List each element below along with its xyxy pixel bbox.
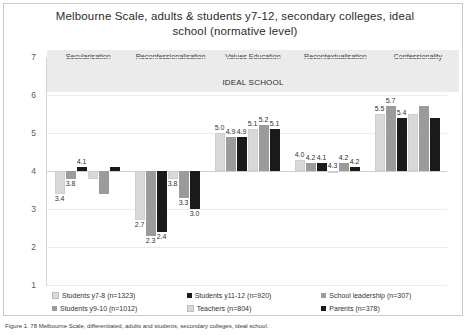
- bar-slot: 3.4: [55, 57, 65, 285]
- legend-swatch-icon: [52, 306, 57, 311]
- bar-slot: 5.2: [259, 57, 269, 285]
- value-label: 4.2: [350, 158, 360, 165]
- value-label: 5.1: [270, 120, 280, 127]
- bar-group-4: 5.55.75.4: [367, 57, 447, 285]
- bar-0-2[interactable]: [77, 167, 87, 171]
- value-label: 4.9: [237, 128, 247, 135]
- value-label: 5.0: [215, 124, 225, 131]
- value-label: 3.8: [66, 180, 76, 187]
- value-label: 5.2: [259, 116, 269, 123]
- bar-slot: 5.0: [215, 57, 225, 285]
- bar-3-4[interactable]: [339, 163, 349, 171]
- value-label: 4.3: [328, 162, 338, 169]
- value-label: 5.4: [397, 109, 407, 116]
- bar-1-5[interactable]: [190, 171, 200, 209]
- value-label: 4.1: [317, 154, 327, 161]
- bar-slot: 2.3: [146, 57, 156, 285]
- bar-0-1[interactable]: [66, 171, 76, 179]
- legend-item-0[interactable]: Students y7-8 (n=1323): [52, 289, 183, 302]
- bar-3-1[interactable]: [306, 163, 316, 171]
- bar-2-1[interactable]: [226, 137, 236, 171]
- y-tick-1: 1: [16, 280, 36, 290]
- bar-slot: 4.2: [306, 57, 316, 285]
- bar-0-3[interactable]: [88, 171, 98, 179]
- bar-group-1: 2.72.32.43.83.33.0: [127, 57, 207, 285]
- y-tick-6: 6: [16, 90, 36, 100]
- bar-4-0[interactable]: [375, 114, 385, 171]
- bar-slot: [110, 57, 120, 285]
- bar-1-1[interactable]: [146, 171, 156, 236]
- bar-4-3[interactable]: [408, 114, 418, 171]
- bar-2-2[interactable]: [237, 137, 247, 171]
- value-label: 4.2: [339, 154, 349, 161]
- legend-swatch-icon: [187, 305, 194, 312]
- legend-swatch-icon: [321, 306, 326, 311]
- bar-2-4[interactable]: [259, 125, 269, 171]
- bar-group-0: 3.43.84.1: [47, 57, 127, 285]
- page-title: Melbourne Scale, adults & students y7-12…: [40, 9, 430, 39]
- bar-2-3[interactable]: [248, 129, 258, 171]
- bar-slot: 4.3: [328, 57, 338, 285]
- value-label: 3.0: [190, 210, 200, 217]
- legend-label: Students y7-8 (n=1323): [62, 292, 135, 299]
- y-tick-2: 2: [16, 242, 36, 252]
- y-tick-5: 5: [16, 128, 36, 138]
- legend-label: Parents (n=378): [329, 305, 379, 312]
- bar-0-0[interactable]: [55, 171, 65, 194]
- bar-slot: [430, 57, 440, 285]
- bar-slot: 4.0: [295, 57, 305, 285]
- bar-slot: 4.2: [350, 57, 360, 285]
- bar-slot: 4.1: [77, 57, 87, 285]
- y-tick-7: 7: [16, 52, 36, 62]
- bar-slot: 5.1: [248, 57, 258, 285]
- bar-4-1[interactable]: [386, 106, 396, 171]
- value-label: 3.3: [179, 199, 189, 206]
- bar-slot: 4.9: [237, 57, 247, 285]
- value-label: 2.4: [157, 233, 167, 240]
- gridline-1: [47, 285, 447, 286]
- bar-1-3[interactable]: [168, 171, 178, 179]
- legend-item-4[interactable]: School leadership (n=307): [321, 289, 452, 302]
- value-label: 5.7: [386, 97, 396, 104]
- value-label: 3.4: [55, 195, 65, 202]
- bar-1-4[interactable]: [179, 171, 189, 198]
- legend-item-3[interactable]: Teachers (n=804): [187, 302, 318, 315]
- bar-0-5[interactable]: [110, 167, 120, 171]
- value-label: 2.3: [146, 237, 156, 244]
- y-tick-3: 3: [16, 204, 36, 214]
- chart-legend: Students y7-8 (n=1323)Students y11-12 (n…: [52, 289, 452, 315]
- bar-slot: 3.8: [66, 57, 76, 285]
- bar-3-3[interactable]: [328, 171, 338, 173]
- value-label: 4.1: [77, 158, 87, 165]
- bar-1-0[interactable]: [135, 171, 145, 220]
- bar-3-2[interactable]: [317, 163, 327, 171]
- bar-slot: [99, 57, 109, 285]
- figure-caption: Figure 1. 78 Melbourne Scale, differenti…: [5, 322, 460, 330]
- value-label: 2.7: [135, 221, 145, 228]
- bar-slot: 3.8: [168, 57, 178, 285]
- legend-swatch-icon: [321, 293, 326, 298]
- legend-label: School leadership (n=307): [329, 292, 411, 299]
- bar-slot: 5.1: [270, 57, 280, 285]
- bar-4-4[interactable]: [419, 106, 429, 171]
- legend-item-2[interactable]: Students y11-12 (n=920): [187, 289, 318, 302]
- y-tick-4: 4: [16, 166, 36, 176]
- bar-slot: 5.4: [397, 57, 407, 285]
- bar-slot: 3.3: [179, 57, 189, 285]
- bar-2-5[interactable]: [270, 129, 280, 171]
- bar-2-0[interactable]: [215, 133, 225, 171]
- bar-4-5[interactable]: [430, 118, 440, 171]
- bar-slot: 4.1: [317, 57, 327, 285]
- legend-item-1[interactable]: Students y9-10 (n=1012): [52, 302, 183, 315]
- bar-slot: 3.0: [190, 57, 200, 285]
- bar-4-2[interactable]: [397, 118, 407, 171]
- figure-page: Melbourne Scale, adults & students y7-12…: [0, 0, 467, 335]
- bar-1-2[interactable]: [157, 171, 167, 232]
- bar-3-0[interactable]: [295, 160, 305, 171]
- bar-0-4[interactable]: [99, 171, 109, 194]
- value-label: 4.2: [306, 154, 316, 161]
- legend-item-5[interactable]: Parents (n=378): [321, 302, 452, 315]
- legend-label: Teachers (n=804): [197, 305, 252, 312]
- bar-3-5[interactable]: [350, 167, 360, 171]
- value-label: 4.0: [295, 151, 305, 158]
